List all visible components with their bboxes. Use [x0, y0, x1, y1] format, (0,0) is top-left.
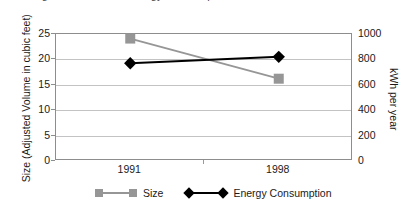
data-point-marker	[274, 74, 284, 84]
legend-key-square-icon	[95, 187, 137, 199]
legend-label: Size	[143, 188, 163, 199]
left-tick-label: 10	[38, 104, 50, 115]
right-axis-title: kWh per year	[389, 54, 400, 144]
chart-figure: Refrigerator Size and Energy Consumption…	[0, 0, 413, 210]
right-tick-label: 800	[358, 53, 376, 64]
cropped-chart-title: Refrigerator Size and Energy Consumption	[0, 0, 413, 11]
data-point-marker	[124, 57, 136, 69]
legend-label: Energy Consumption	[233, 188, 331, 199]
left-tick-label: 0	[44, 155, 50, 166]
data-point-marker	[125, 34, 135, 44]
cropped-chart-title-text: Refrigerator Size and Energy Consumption	[18, 0, 232, 1]
plot-area	[55, 33, 352, 160]
left-axis-tick-labels: 0510152025	[26, 33, 50, 160]
data-point-marker	[273, 51, 285, 63]
left-tick-label: 25	[38, 28, 50, 39]
left-tick-label: 5	[44, 130, 50, 141]
x-tick-label: 1991	[118, 164, 141, 175]
legend-entry[interactable]: Energy Consumption	[185, 187, 331, 199]
left-tick-label: 20	[38, 53, 50, 64]
legend-key-diamond-icon	[185, 187, 227, 199]
chart-legend: SizeEnergy Consumption	[95, 185, 332, 201]
right-tick-label: 400	[358, 104, 376, 115]
right-axis-tick-labels: 02004006008001000	[358, 33, 388, 160]
series-layer	[56, 34, 353, 161]
right-tick-label: 200	[358, 130, 376, 141]
left-tick-label: 15	[38, 79, 50, 90]
left-tickmark	[51, 160, 55, 161]
x-tick-label: 1998	[266, 164, 289, 175]
right-tick-label: 600	[358, 79, 376, 90]
right-tick-label: 1000	[358, 28, 381, 39]
legend-entry[interactable]: Size	[95, 187, 163, 199]
x-axis-tick-labels: 19911998	[55, 164, 352, 178]
right-tick-label: 0	[358, 155, 364, 166]
